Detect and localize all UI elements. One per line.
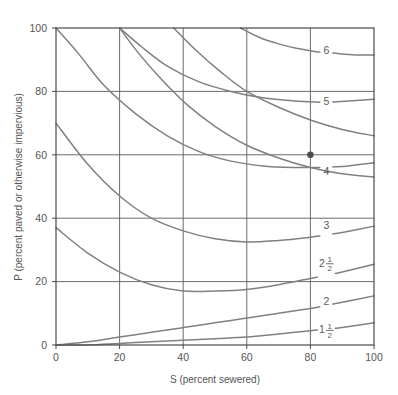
x-tick-label: 40 <box>177 351 189 363</box>
y-tick-label: 40 <box>35 212 47 224</box>
y-tick-label: 100 <box>29 22 47 34</box>
y-tick-label: 20 <box>35 275 47 287</box>
chart-background <box>0 0 398 395</box>
curve-label-1 1/2-denominator: 2 <box>328 331 333 340</box>
curve-label-2 1/2-denominator: 2 <box>328 264 333 273</box>
y-tick-label: 80 <box>35 85 47 97</box>
x-axis-title: S (percent sewered) <box>170 374 260 385</box>
curve-label-1 1/2: 1 <box>319 323 325 335</box>
curve-label-3: 3 <box>323 219 329 231</box>
y-axis-title: P (percent paved or otherwise impervious… <box>13 93 24 281</box>
curve-label-2 1/2-numerator: 1 <box>328 255 333 264</box>
curve-label-2: 2 <box>323 295 329 307</box>
curve-label-2 1/2: 2 <box>319 257 325 269</box>
nomograph-chart: 11222123456 020406080100 020406080100 S … <box>0 0 398 395</box>
curve-label-5: 5 <box>323 95 329 107</box>
x-tick-label: 20 <box>114 351 126 363</box>
chart-figure: 11222123456 020406080100 020406080100 S … <box>0 0 398 395</box>
x-tick-label: 100 <box>365 351 383 363</box>
x-tick-label: 60 <box>241 351 253 363</box>
x-tick-label: 80 <box>305 351 317 363</box>
curve-label-4: 4 <box>323 165 329 177</box>
y-tick-label: 0 <box>41 339 47 351</box>
curve-label-6: 6 <box>323 44 329 56</box>
marker-operating-point <box>307 152 313 158</box>
marker-group <box>307 152 313 158</box>
y-tick-label: 60 <box>35 149 47 161</box>
x-tick-label: 0 <box>53 351 59 363</box>
curve-label-1 1/2-numerator: 1 <box>328 322 333 331</box>
